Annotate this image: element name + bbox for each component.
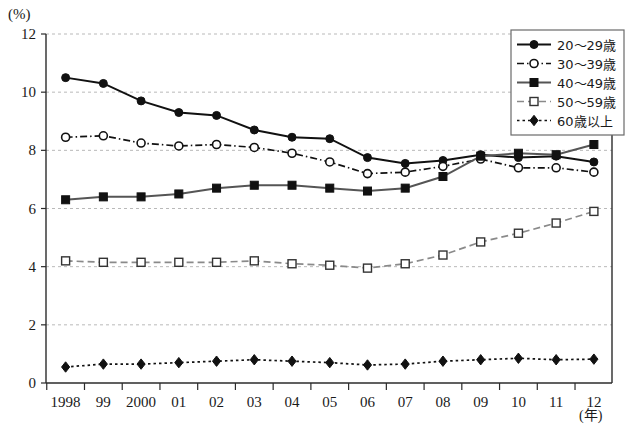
data-point-marker bbox=[401, 159, 409, 167]
data-point-marker bbox=[99, 79, 107, 87]
data-point-marker bbox=[530, 79, 538, 87]
data-point-marker bbox=[363, 170, 371, 178]
data-point-marker bbox=[62, 196, 70, 204]
y-tick-label: 8 bbox=[29, 142, 37, 158]
data-point-marker bbox=[326, 135, 334, 143]
x-tick-label: 99 bbox=[96, 394, 111, 410]
data-point-marker bbox=[363, 264, 371, 272]
data-point-marker bbox=[99, 193, 107, 201]
data-point-marker bbox=[514, 149, 522, 157]
data-point-marker bbox=[552, 164, 560, 172]
data-point-marker bbox=[288, 133, 296, 141]
data-point-marker bbox=[552, 151, 560, 159]
data-point-marker bbox=[514, 229, 522, 237]
data-point-marker bbox=[250, 181, 258, 189]
data-point-marker bbox=[137, 359, 145, 369]
x-tick-label: 04 bbox=[285, 394, 301, 410]
data-point-marker bbox=[552, 219, 560, 227]
data-point-marker bbox=[326, 261, 334, 269]
data-point-marker bbox=[62, 362, 70, 372]
data-point-marker bbox=[137, 258, 145, 266]
data-point-marker bbox=[477, 152, 485, 160]
x-tick-label: 08 bbox=[435, 394, 450, 410]
data-point-marker bbox=[590, 141, 598, 149]
data-point-marker bbox=[288, 260, 296, 268]
data-point-marker bbox=[288, 356, 296, 366]
data-point-marker bbox=[530, 41, 538, 49]
data-point-marker bbox=[62, 133, 70, 141]
x-tick-label: 05 bbox=[322, 394, 337, 410]
data-point-marker bbox=[212, 356, 220, 366]
x-tick-label: 07 bbox=[398, 394, 414, 410]
line-chart: (%) (年) 024681012 1998992000010203040506… bbox=[0, 0, 630, 430]
data-point-marker bbox=[137, 139, 145, 147]
data-point-marker bbox=[401, 260, 409, 268]
data-series bbox=[62, 353, 598, 372]
data-point-marker bbox=[137, 97, 145, 105]
data-point-marker bbox=[590, 158, 598, 166]
data-point-marker bbox=[213, 111, 221, 119]
x-tick-label: 03 bbox=[247, 394, 262, 410]
y-tick-label: 0 bbox=[29, 375, 37, 391]
data-point-marker bbox=[514, 164, 522, 172]
y-axis-ticks: 024681012 bbox=[21, 26, 46, 391]
data-series bbox=[62, 207, 598, 272]
chart-canvas: 024681012 199899200001020304050607080910… bbox=[0, 0, 630, 430]
data-point-marker bbox=[477, 238, 485, 246]
x-tick-label: 10 bbox=[511, 394, 526, 410]
data-point-marker bbox=[590, 168, 598, 176]
y-tick-label: 10 bbox=[21, 84, 36, 100]
data-point-marker bbox=[99, 359, 107, 369]
data-point-marker bbox=[213, 184, 221, 192]
x-tick-label: 11 bbox=[549, 394, 563, 410]
x-axis-ticks: 1998992000010203040506070809101112 bbox=[47, 383, 602, 410]
data-point-marker bbox=[62, 257, 70, 265]
data-point-marker bbox=[213, 258, 221, 266]
chart-legend: 20〜29歳30〜39歳40〜49歳50〜59歳60歳以上 bbox=[511, 30, 624, 135]
data-point-marker bbox=[590, 354, 598, 364]
data-point-marker bbox=[401, 184, 409, 192]
x-tick-label: 01 bbox=[171, 394, 186, 410]
legend-item-label: 20〜29歳 bbox=[557, 38, 616, 53]
data-point-marker bbox=[590, 207, 598, 215]
data-point-marker bbox=[326, 158, 334, 166]
x-tick-label: 06 bbox=[360, 394, 376, 410]
data-point-marker bbox=[137, 193, 145, 201]
data-point-marker bbox=[363, 187, 371, 195]
x-tick-label: 2000 bbox=[126, 394, 156, 410]
data-point-marker bbox=[175, 258, 183, 266]
data-point-marker bbox=[250, 355, 258, 365]
data-point-marker bbox=[552, 355, 560, 365]
data-point-marker bbox=[175, 109, 183, 117]
y-tick-label: 6 bbox=[29, 201, 37, 217]
data-point-marker bbox=[401, 359, 409, 369]
legend-item-label: 50〜59歳 bbox=[557, 95, 616, 110]
x-tick-label: 1998 bbox=[51, 394, 81, 410]
data-point-marker bbox=[250, 126, 258, 134]
data-point-marker bbox=[175, 190, 183, 198]
data-point-marker bbox=[530, 60, 538, 68]
data-point-marker bbox=[175, 142, 183, 150]
data-point-marker bbox=[99, 132, 107, 140]
data-point-marker bbox=[439, 251, 447, 259]
data-point-marker bbox=[250, 143, 258, 151]
data-point-marker bbox=[99, 258, 107, 266]
x-tick-label: 02 bbox=[209, 394, 224, 410]
data-point-marker bbox=[175, 357, 183, 367]
x-tick-label: 09 bbox=[473, 394, 488, 410]
x-tick-label: 12 bbox=[586, 394, 601, 410]
data-point-marker bbox=[213, 141, 221, 149]
y-tick-label: 4 bbox=[29, 259, 37, 275]
data-point-marker bbox=[288, 149, 296, 157]
data-point-marker bbox=[514, 353, 522, 363]
data-point-marker bbox=[326, 357, 334, 367]
data-point-marker bbox=[439, 162, 447, 170]
data-point-marker bbox=[288, 181, 296, 189]
data-point-marker bbox=[530, 98, 538, 106]
data-point-marker bbox=[439, 356, 447, 366]
data-point-marker bbox=[477, 355, 485, 365]
data-point-marker bbox=[401, 168, 409, 176]
data-point-marker bbox=[326, 184, 334, 192]
legend-item-label: 60歳以上 bbox=[557, 114, 613, 129]
data-point-marker bbox=[363, 360, 371, 370]
